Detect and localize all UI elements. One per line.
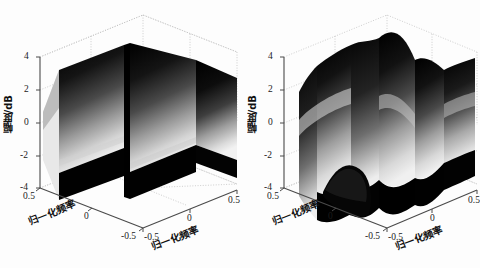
left-ytick-05: 0.5 [23, 192, 35, 202]
right-xtick-05: 0.5 [468, 196, 480, 206]
left-z-axis-label: 幅度/dB [4, 95, 14, 133]
left-ztick-2: 2 [24, 85, 29, 95]
right-plot-canvas [239, 0, 479, 268]
right-ztick-2: 2 [268, 85, 273, 95]
right-ztick-0: 0 [268, 118, 273, 128]
right-z-axis-label: 幅度/dB [248, 95, 258, 133]
left-ytick-0: 0 [84, 212, 89, 222]
right-ztick-neg2: -2 [264, 151, 272, 161]
right-ytick-0: 0 [328, 212, 333, 222]
left-plot-canvas [0, 0, 239, 268]
left-ztick-neg2: -2 [20, 151, 28, 161]
left-ztick-4: 4 [24, 52, 29, 62]
left-xtick-0: 0 [187, 214, 192, 224]
right-surface-mesh [299, 32, 475, 222]
left-ztick-0: 0 [24, 118, 29, 128]
right-ytick-05: 0.5 [267, 192, 279, 202]
surface-plot-right: 4 2 0 -2 -4 幅度/dB 0.5 0 -0.5 归一化频率 -0.5 … [239, 0, 479, 268]
surface-plot-left: 4 2 0 -2 -4 幅度/dB 0.5 0 -0.5 归一化频率 -0.5 … [0, 0, 239, 268]
right-ytick-neg05: -0.5 [365, 232, 380, 242]
right-ztick-4: 4 [268, 52, 273, 62]
left-ytick-neg05: -0.5 [121, 232, 136, 242]
left-surface-mesh [43, 43, 237, 200]
right-xtick-0: 0 [430, 214, 435, 224]
